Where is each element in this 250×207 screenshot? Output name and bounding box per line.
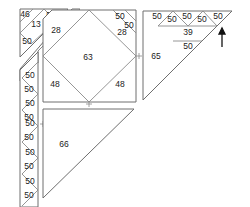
square-label-28-left: 28 <box>51 25 61 35</box>
right-label-50: 50 <box>213 11 223 21</box>
square-block: 28 50 50 28 63 48 48 <box>43 10 142 107</box>
strip-label: 50 <box>24 190 34 200</box>
strip-label: 50 <box>24 161 34 171</box>
vertical-strip: 50 50 50 50 50 50 50 50 50 50 50 <box>20 52 46 207</box>
right-label-50: 50 <box>182 11 192 21</box>
right-label-50-bottom: 50 <box>183 41 193 51</box>
right-label-50: 50 <box>167 14 177 24</box>
up-arrow-icon <box>219 28 225 47</box>
corner-label-13: 13 <box>31 19 41 29</box>
strip-label: 50 <box>24 132 34 142</box>
right-label-39: 39 <box>183 27 193 37</box>
square-label-63: 63 <box>83 52 93 62</box>
strip-label: 50 <box>25 176 35 186</box>
right-triangle: 50 50 50 50 50 39 50 65 <box>143 11 232 100</box>
corner-label-50-bottom: 50 <box>22 36 32 46</box>
right-label-50: 50 <box>152 11 162 21</box>
square-label-28-right: 28 <box>117 27 127 37</box>
corner-label-46: 46 <box>20 9 30 19</box>
bottom-label-66: 66 <box>59 139 69 149</box>
square-label-48-left: 48 <box>50 79 60 89</box>
right-label-50: 50 <box>197 14 207 24</box>
strip-label: 50 <box>25 70 35 80</box>
strip-label: 50 <box>24 84 34 94</box>
strip-label: 50 <box>25 98 35 108</box>
quilt-cutting-diagram: 46 50 13 50 50 50 50 50 50 50 50 50 50 5… <box>0 0 250 207</box>
right-label-65: 65 <box>151 51 161 61</box>
bottom-triangle: 66 <box>43 109 134 198</box>
square-label-48-right: 48 <box>115 79 125 89</box>
strip-label: 50 <box>25 147 35 157</box>
strip-label: 50 <box>25 118 35 128</box>
